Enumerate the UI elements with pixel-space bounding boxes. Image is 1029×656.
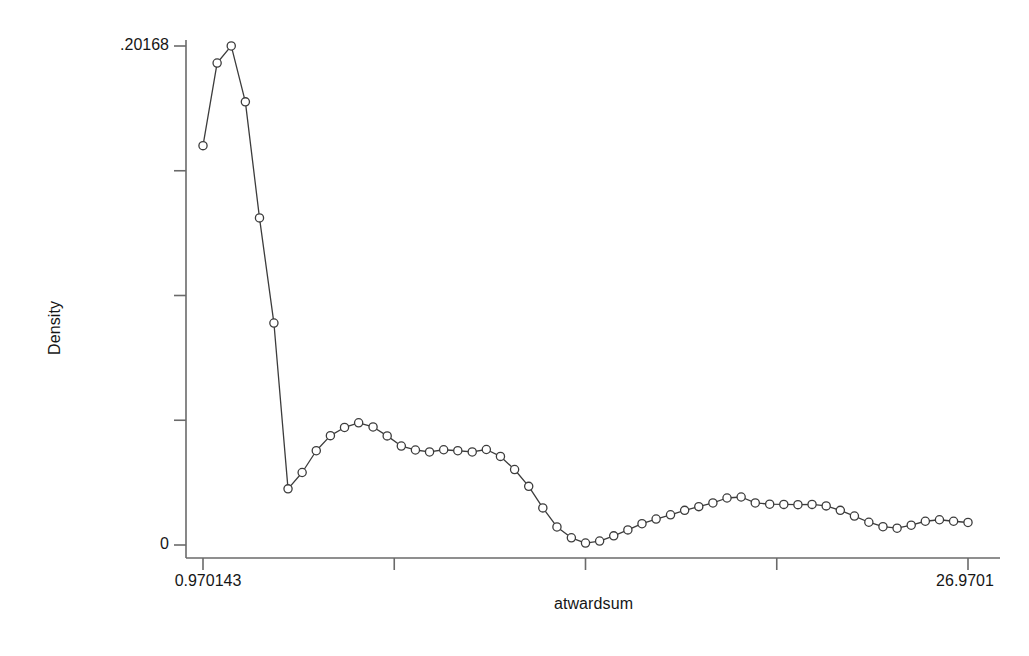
data-point-marker <box>596 537 604 545</box>
data-point-marker <box>893 524 901 532</box>
data-point-marker <box>298 468 306 476</box>
data-point-marker <box>241 98 249 106</box>
data-point-marker <box>581 539 589 547</box>
data-point-marker <box>949 517 957 525</box>
data-point-marker <box>355 419 363 427</box>
data-point-marker <box>383 432 391 440</box>
data-point-marker <box>907 521 915 529</box>
data-point-marker <box>836 506 844 514</box>
data-point-marker <box>496 452 504 460</box>
data-point-marker <box>510 465 518 473</box>
data-point-marker <box>964 518 972 526</box>
data-point-marker <box>935 516 943 524</box>
data-point-marker <box>411 446 419 454</box>
data-point-marker <box>454 447 462 455</box>
data-point-marker <box>482 445 490 453</box>
y-axis-min-tick-label: 0 <box>0 535 169 553</box>
data-point-marker <box>921 517 929 525</box>
data-point-marker <box>865 518 873 526</box>
data-point-marker <box>255 214 263 222</box>
data-point-marker <box>468 448 476 456</box>
data-point-marker <box>567 534 575 542</box>
data-point-marker <box>638 520 646 528</box>
data-point-marker <box>879 523 887 531</box>
data-point-marker <box>326 432 334 440</box>
data-point-marker <box>270 319 278 327</box>
data-point-marker <box>624 526 632 534</box>
data-point-marker <box>808 500 816 508</box>
data-point-marker <box>780 500 788 508</box>
data-point-marker <box>822 502 830 510</box>
y-axis-max-tick-label: .20168 <box>0 36 169 54</box>
data-point-marker <box>525 482 533 490</box>
data-point-marker <box>199 142 207 150</box>
data-point-marker <box>737 493 745 501</box>
data-point-marker <box>397 442 405 450</box>
data-point-marker <box>766 500 774 508</box>
data-point-marker <box>751 499 759 507</box>
data-point-marker <box>425 448 433 456</box>
data-point-marker <box>709 499 717 507</box>
data-point-marker <box>284 485 292 493</box>
data-point-marker <box>723 494 731 502</box>
data-point-marker <box>312 447 320 455</box>
data-point-marker <box>695 503 703 511</box>
data-point-marker <box>539 504 547 512</box>
data-point-marker <box>652 515 660 523</box>
data-point-marker <box>440 446 448 454</box>
x-axis-title: atwardsum <box>0 595 1029 613</box>
y-axis-title: Density <box>46 301 64 355</box>
data-point-marker <box>666 511 674 519</box>
data-point-marker <box>553 523 561 531</box>
data-point-marker <box>369 423 377 431</box>
density-plot-figure: Density atwardsum .20168 0 0.970143 26.9… <box>0 0 1029 656</box>
data-point-marker <box>227 42 235 50</box>
data-point-marker <box>340 423 348 431</box>
x-axis-max-tick-label: 26.9701 <box>825 572 1029 590</box>
data-point-marker <box>610 532 618 540</box>
plot-canvas <box>0 0 1029 656</box>
x-axis-min-tick-label: 0.970143 <box>68 572 348 590</box>
data-point-marker <box>213 59 221 67</box>
data-point-marker <box>681 506 689 514</box>
data-point-marker <box>850 512 858 520</box>
data-point-marker <box>794 501 802 509</box>
